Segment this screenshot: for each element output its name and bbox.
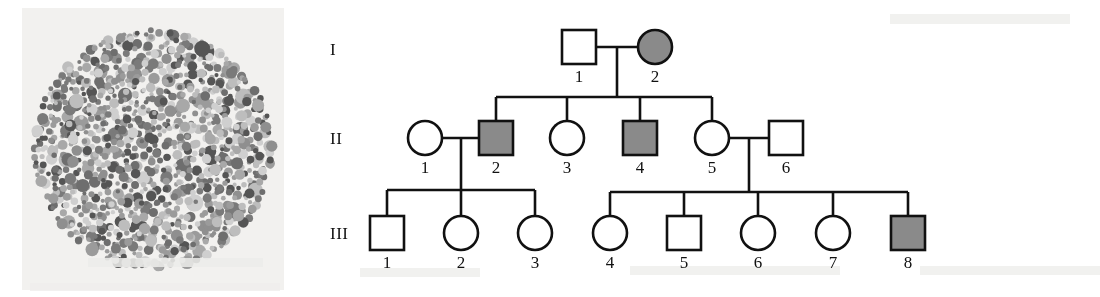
individual-number-i-2: 2 (643, 67, 667, 87)
generation-label-ii: II (330, 129, 342, 149)
pedigree-symbol-i-2-affected-female[interactable] (638, 30, 672, 64)
individual-number-ii-4: 4 (628, 158, 652, 178)
color-vision-plate-panel (0, 0, 300, 297)
pedigree-symbol-ii-1-unaffected-female[interactable] (408, 121, 442, 155)
individual-number-i-1: 1 (567, 67, 591, 87)
individual-number-iii-3: 3 (523, 253, 547, 273)
individual-number-ii-5: 5 (700, 158, 724, 178)
scan-artifact (30, 283, 280, 291)
pedigree-symbol-iii-1-unaffected-male[interactable] (370, 216, 404, 250)
individual-number-iii-7: 7 (821, 253, 845, 273)
pedigree-symbol-ii-2-affected-male[interactable] (479, 121, 513, 155)
pedigree-symbol-ii-3-unaffected-female[interactable] (550, 121, 584, 155)
generation-label-i: I (330, 40, 336, 60)
pedigree-symbol-iii-5-unaffected-male[interactable] (667, 216, 701, 250)
pedigree-symbol-iii-8-affected-male[interactable] (891, 216, 925, 250)
pedigree-symbol-i-1-unaffected-male[interactable] (562, 30, 596, 64)
generation-label-iii: III (330, 224, 348, 244)
pedigree-symbol-ii-6-unaffected-male[interactable] (769, 121, 803, 155)
pedigree-symbol-ii-5-unaffected-female[interactable] (695, 121, 729, 155)
ishihara-plate-image (22, 8, 284, 290)
individual-number-iii-4: 4 (598, 253, 622, 273)
pedigree-symbol-ii-4-affected-male[interactable] (623, 121, 657, 155)
individual-number-ii-3: 3 (555, 158, 579, 178)
individual-number-iii-6: 6 (746, 253, 770, 273)
individual-number-iii-8: 8 (896, 253, 920, 273)
pedigree-symbol-iii-4-unaffected-female[interactable] (593, 216, 627, 250)
individual-number-ii-1: 1 (413, 158, 437, 178)
pedigree-panel: IIIIII 1212345612345678 (300, 0, 955, 297)
scan-artifact (88, 258, 263, 267)
pedigree-symbol-iii-2-unaffected-female[interactable] (444, 216, 478, 250)
pedigree-symbol-iii-7-unaffected-female[interactable] (816, 216, 850, 250)
individual-number-ii-2: 2 (484, 158, 508, 178)
individual-number-iii-1: 1 (375, 253, 399, 273)
pedigree-symbol-iii-3-unaffected-female[interactable] (518, 216, 552, 250)
pedigree-symbols (370, 30, 925, 250)
pedigree-symbol-iii-6-unaffected-female[interactable] (741, 216, 775, 250)
individual-number-ii-6: 6 (774, 158, 798, 178)
individual-number-iii-5: 5 (672, 253, 696, 273)
individual-number-iii-2: 2 (449, 253, 473, 273)
